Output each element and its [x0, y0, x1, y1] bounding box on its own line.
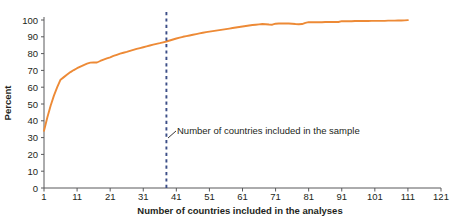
y-tick-label: 0 [33, 183, 38, 194]
y-tick-label: 80 [27, 48, 38, 59]
y-axis-tick-labels: 0102030405060708090100 [22, 15, 38, 194]
x-tick-label: 41 [171, 191, 182, 202]
x-axis-title: Number of countries included in the anal… [137, 205, 342, 216]
y-tick-label: 40 [27, 115, 38, 126]
x-tick-label: 111 [401, 191, 415, 202]
y-tick-label: 30 [27, 132, 38, 143]
x-tick-label: 101 [367, 191, 383, 202]
y-tick-label: 20 [27, 149, 38, 160]
y-tick-label: 100 [22, 15, 38, 26]
x-tick-label: 81 [303, 191, 314, 202]
x-tick-label: 51 [204, 191, 215, 202]
y-tick-label: 70 [27, 65, 38, 76]
x-tick-label: 11 [72, 191, 82, 202]
x-axis-tick-labels: 1112131415161718191101111121 [41, 191, 449, 202]
y-tick-label: 50 [27, 99, 38, 110]
chart-container: 0102030405060708090100 11121314151617181… [0, 0, 455, 224]
x-tick-label: 61 [237, 191, 248, 202]
x-tick-label: 91 [336, 191, 347, 202]
y-axis-title: Percent [2, 85, 13, 121]
x-tick-label: 1 [41, 191, 46, 202]
x-tick-label: 21 [105, 191, 116, 202]
x-tick-label: 71 [270, 191, 281, 202]
line-chart: 0102030405060708090100 11121314151617181… [0, 0, 455, 224]
x-tick-label: 121 [433, 191, 449, 202]
data-curve [44, 20, 408, 131]
y-tick-label: 60 [27, 82, 38, 93]
y-tick-label: 10 [27, 166, 38, 177]
x-tick-label: 31 [138, 191, 149, 202]
sample-marker-label: Number of countries included in the samp… [177, 125, 360, 136]
y-tick-label: 90 [27, 31, 38, 42]
annotation-leader-line [168, 131, 176, 138]
